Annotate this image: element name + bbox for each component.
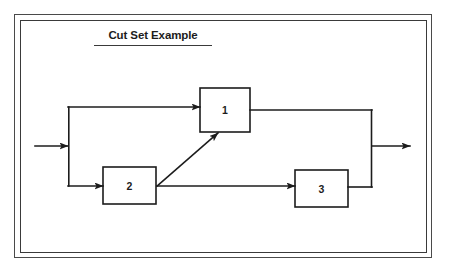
block-2-label: 2 <box>127 180 133 192</box>
block-3-label: 3 <box>319 183 325 195</box>
block-1-label: 1 <box>222 104 228 116</box>
edge-block-2-to-block-1 <box>157 133 218 186</box>
block-diagram: 1 2 3 <box>0 0 449 274</box>
figure-page: Cut Set Example <box>0 0 449 274</box>
